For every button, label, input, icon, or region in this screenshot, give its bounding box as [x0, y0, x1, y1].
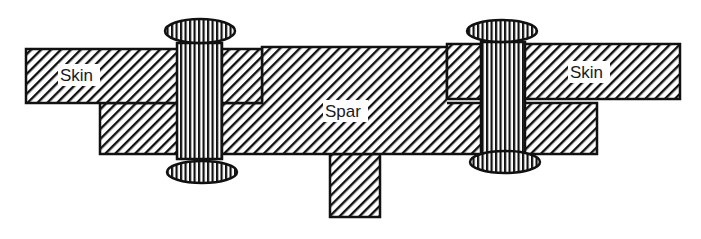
spar-web: [330, 154, 380, 217]
bolt-left-shaft: [177, 43, 222, 159]
bolt-left-head: [165, 19, 235, 43]
label-skin-left: Skin: [60, 66, 93, 85]
bolt-right-shaft: [481, 42, 525, 154]
bolt-left-nut: [167, 161, 237, 183]
label-skin-right: Skin: [570, 63, 603, 82]
label-spar: Spar: [325, 102, 361, 121]
bolt-right-head: [467, 20, 537, 42]
spar-upper: [262, 47, 447, 105]
joint-diagram: Skin Spar Skin: [0, 0, 701, 239]
bolt-right-nut: [470, 151, 540, 173]
